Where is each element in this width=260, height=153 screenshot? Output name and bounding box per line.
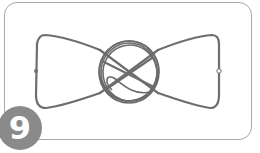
right-wing-wire — [158, 35, 219, 108]
step-number: 9 — [0, 106, 42, 150]
left-wire-end-dot — [34, 69, 38, 73]
right-wire-end-dot — [217, 69, 221, 73]
left-wing-wire — [36, 35, 100, 108]
